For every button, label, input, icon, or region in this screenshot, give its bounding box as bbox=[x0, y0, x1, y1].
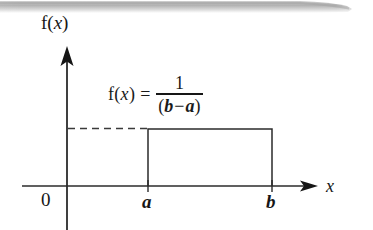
fraction-numerator: 1 bbox=[165, 74, 194, 93]
denominator-right-term: a bbox=[186, 96, 195, 116]
equation-equals-sign: = bbox=[140, 85, 150, 103]
tick-label-a: a bbox=[142, 192, 152, 211]
x-axis-label: x bbox=[326, 177, 334, 195]
equation-annotation: f(x) = 1 (b−a) bbox=[108, 74, 203, 115]
denominator-minus-sign: − bbox=[173, 96, 185, 116]
figure-root: f(x) 0 a b x f(x) = 1 (b−a) bbox=[0, 0, 373, 230]
y-axis-label: f(x) bbox=[41, 13, 68, 32]
origin-label: 0 bbox=[41, 190, 51, 209]
fraction-denominator: (b−a) bbox=[156, 95, 202, 115]
equation-lhs: f(x) bbox=[108, 85, 135, 103]
equation-fraction: 1 (b−a) bbox=[156, 74, 202, 115]
uniform-density-rectangle bbox=[148, 129, 272, 186]
denominator-left-term: b bbox=[164, 96, 173, 116]
tick-label-b: b bbox=[266, 192, 276, 211]
denominator-close-paren: ) bbox=[195, 96, 201, 116]
y-axis-label-text: f(x) bbox=[41, 12, 68, 33]
